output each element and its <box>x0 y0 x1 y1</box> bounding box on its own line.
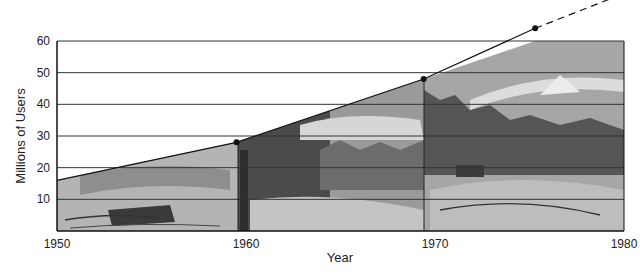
y-tick-label: 20 <box>37 161 51 175</box>
y-tick-label: 40 <box>37 97 51 111</box>
y-tick-label: 30 <box>37 129 51 143</box>
data-point <box>234 139 240 145</box>
x-tick-label: 1950 <box>44 237 71 251</box>
x-tick-label: 1960 <box>233 237 260 251</box>
chart: 102030405060 1950196019701980 Year Milli… <box>0 0 640 274</box>
data-point <box>421 76 427 82</box>
y-axis-label: Millions of Users <box>13 88 28 184</box>
y-tick-label: 10 <box>37 192 51 206</box>
x-tick-label: 1980 <box>611 237 638 251</box>
y-tick-label: 60 <box>37 34 51 48</box>
projection-line <box>535 0 624 28</box>
x-tick-label: 1970 <box>422 237 449 251</box>
y-tick-label: 50 <box>37 66 51 80</box>
x-axis-label: Year <box>327 250 354 265</box>
car-shape <box>456 165 484 177</box>
data-point <box>532 25 538 31</box>
x-tick-labels: 1950196019701980 <box>44 237 638 251</box>
y-tick-labels: 102030405060 <box>37 34 51 206</box>
